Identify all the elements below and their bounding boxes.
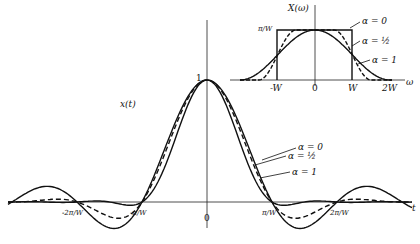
inset-tick-zero: 0 bbox=[312, 84, 318, 93]
main-x-label: t bbox=[412, 204, 416, 213]
main-legend-alpha-half: α = ½ bbox=[288, 152, 316, 161]
inset-y-label: X(ω) bbox=[288, 4, 309, 13]
raised-cosine-figure: x(t) 1 t -2π/W -π/W 0 π/W 2π/W α = 0 α =… bbox=[0, 0, 420, 244]
peak-label: 1 bbox=[196, 74, 202, 83]
inset-tick-neg-w: -W bbox=[270, 84, 282, 93]
inset-x-label: ω bbox=[406, 78, 413, 87]
inset-legend-alpha-half: α = ½ bbox=[362, 37, 390, 46]
inset-tick-w: W bbox=[348, 84, 357, 93]
inset-level-label: π/W bbox=[258, 26, 272, 33]
tick-zero: 0 bbox=[204, 214, 210, 223]
inset-tick-2w: 2W bbox=[382, 84, 397, 93]
main-y-label: x(t) bbox=[120, 100, 136, 109]
tick-neg-pi: -π/W bbox=[130, 210, 147, 217]
tick-pi: π/W bbox=[262, 210, 276, 217]
main-legend-alpha-1: α = 1 bbox=[292, 168, 317, 177]
tick-neg-2pi: -2π/W bbox=[62, 210, 83, 217]
tick-2pi: 2π/W bbox=[330, 210, 349, 217]
inset-legend-alpha-0: α = 0 bbox=[362, 17, 387, 26]
inset-legend-alpha-1: α = 1 bbox=[372, 56, 397, 65]
figure-graphics bbox=[0, 0, 420, 244]
